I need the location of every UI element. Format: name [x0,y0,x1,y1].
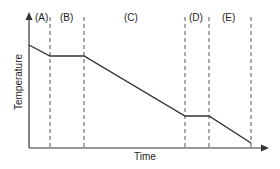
region-label-a: (A) [35,12,48,23]
region-label-b: (B) [60,12,73,23]
chart-canvas: (A) (B) (C) (D) (E) Temperature Time [0,0,280,169]
region-label-e: (E) [222,12,235,23]
temperature-curve [29,45,251,143]
x-axis-label: Time [134,151,156,162]
y-axis-arrow-icon [26,12,33,20]
y-axis-label: Temperature [13,53,24,110]
cooling-curve-diagram: (A) (B) (C) (D) (E) Temperature Time [0,0,280,169]
region-label-d: (D) [189,12,203,23]
x-axis-arrow-icon [261,145,269,152]
region-label-c: (C) [124,12,138,23]
